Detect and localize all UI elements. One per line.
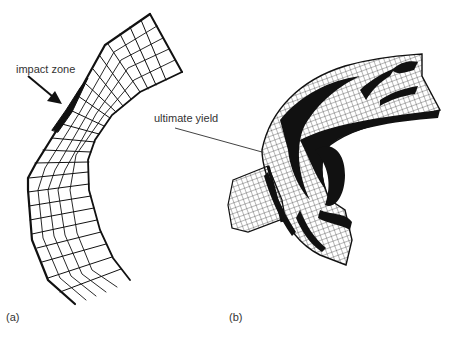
figure: impact zone ultimate yield (a) (b) [0, 0, 458, 337]
ultimate-yield-leader [175, 128, 262, 152]
ultimate-yield-label: ultimate yield [154, 113, 218, 124]
panel-b-mesh [0, 0, 458, 337]
panel-a-caption: (a) [6, 312, 19, 323]
panel-b-caption: (b) [229, 312, 242, 323]
impact-zone-label: impact zone [16, 64, 75, 75]
